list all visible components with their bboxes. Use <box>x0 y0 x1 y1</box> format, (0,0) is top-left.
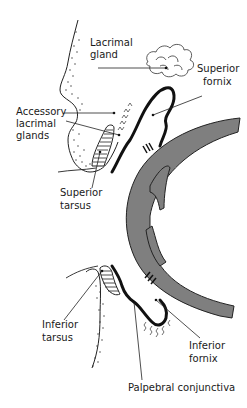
lower-lid-stippling <box>92 285 104 366</box>
lacrimal-gland-shape <box>147 44 194 76</box>
label-lacrimal-gland-2: gland <box>90 49 118 60</box>
label-palpebral-conjunctiva: Palpebral conjunctiva <box>128 382 235 393</box>
label-superior-tarsus-1: Superior <box>60 187 103 198</box>
label-inferior-tarsus-2: tarsus <box>42 332 73 343</box>
leader-inferior-tarsus <box>64 271 102 320</box>
label-inferior-tarsus-1: Inferior <box>42 319 79 330</box>
lacrimal-gland-pointer-dot <box>165 67 168 70</box>
label-superior-tarsus-2: tarsus <box>60 200 91 211</box>
accessory-lacrimal-glands-lower <box>144 320 170 337</box>
label-accessory-3: glands <box>16 130 49 141</box>
label-accessory-2: lacrimal <box>16 118 56 129</box>
label-superior-fornix-2: fornix <box>203 76 232 87</box>
leader-superior-fornix <box>153 96 202 115</box>
accessory-lacrimal-glands-upper <box>118 103 132 130</box>
lower-eyelash <box>66 266 98 278</box>
limbus-marks-upper <box>143 143 153 153</box>
label-superior-fornix-1: Superior <box>197 63 240 74</box>
upper-eyelash <box>58 168 96 172</box>
label-inferior-fornix-1: Inferior <box>189 340 226 351</box>
label-inferior-fornix-2: fornix <box>189 353 218 364</box>
lower-lid-skin-outline <box>86 269 101 368</box>
upper-lid-stippling <box>65 31 90 166</box>
label-lacrimal-gland-1: Lacrimal <box>90 37 133 48</box>
label-accessory-1: Accessory <box>16 106 66 117</box>
palpebral-conjunctiva-pointer-dot <box>133 301 136 304</box>
leader-palpebral-conjunctiva <box>134 302 142 380</box>
eyelid-diagram: Lacrimal gland Superior fornix Accessory… <box>0 0 247 408</box>
